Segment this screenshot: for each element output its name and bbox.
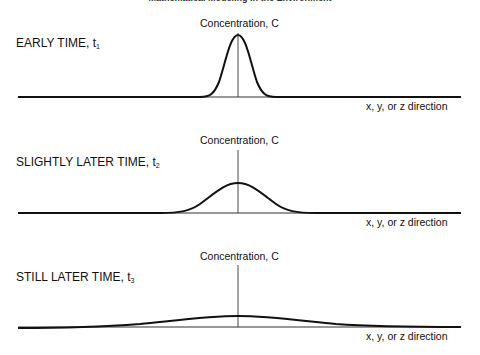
concentration-curve-3 [18, 316, 461, 328]
concentration-curve-1 [18, 35, 461, 97]
concentration-curve-2 [18, 183, 461, 213]
diffusion-diagram [0, 0, 480, 355]
